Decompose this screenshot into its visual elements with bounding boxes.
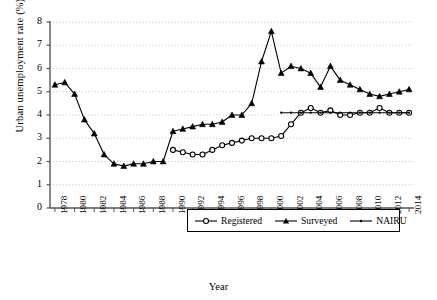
legend-marker-small-dot xyxy=(349,215,373,227)
legend-item-nairu: NAIRU xyxy=(349,215,406,227)
legend-item-registered: Registered xyxy=(194,215,262,227)
data-point-registered xyxy=(249,136,254,141)
legend-label: NAIRU xyxy=(376,215,406,226)
data-point-registered xyxy=(377,106,382,111)
chart-figure: Urban unemployment rate (%) Year 0123456… xyxy=(0,0,437,300)
data-point-surveyed xyxy=(268,28,274,34)
data-point-nairu xyxy=(398,112,400,114)
data-point-surveyed xyxy=(249,100,255,106)
x-tick-label: 1988 xyxy=(157,196,167,214)
data-point-registered xyxy=(279,133,284,138)
data-point-surveyed xyxy=(81,117,87,123)
data-point-registered xyxy=(289,122,294,127)
x-tick-label: 1980 xyxy=(78,196,88,214)
data-point-nairu xyxy=(300,112,302,114)
data-point-registered xyxy=(180,150,185,155)
data-point-registered xyxy=(308,106,313,111)
data-point-nairu xyxy=(408,112,410,114)
y-tick-label: 2 xyxy=(22,155,42,166)
y-tick-label: 7 xyxy=(22,38,42,49)
data-point-nairu xyxy=(280,112,282,114)
data-point-surveyed xyxy=(62,79,68,85)
y-tick-label: 0 xyxy=(22,201,42,212)
data-point-registered xyxy=(190,152,195,157)
data-point-nairu xyxy=(329,112,331,114)
data-point-surveyed xyxy=(288,63,294,69)
data-point-registered xyxy=(170,147,175,152)
data-point-registered xyxy=(239,138,244,143)
data-point-nairu xyxy=(369,112,371,114)
data-point-surveyed xyxy=(219,119,225,125)
data-point-surveyed xyxy=(278,70,284,76)
data-point-registered xyxy=(259,136,264,141)
y-tick-label: 3 xyxy=(22,131,42,142)
legend-marker-open-circle xyxy=(194,215,218,227)
legend-label: Registered xyxy=(221,215,262,226)
data-point-surveyed xyxy=(327,63,333,69)
data-point-surveyed xyxy=(101,151,107,157)
x-tick-label: 1984 xyxy=(118,196,128,214)
x-tick-label: 1978 xyxy=(59,196,69,214)
data-point-registered xyxy=(210,147,215,152)
data-point-surveyed xyxy=(357,86,363,92)
legend-item-surveyed: Surveyed xyxy=(274,215,337,227)
y-tick-label: 5 xyxy=(22,85,42,96)
data-point-nairu xyxy=(310,112,312,114)
data-point-registered xyxy=(269,136,274,141)
legend-label: Surveyed xyxy=(301,215,337,226)
y-tick-label: 6 xyxy=(22,62,42,73)
data-point-nairu xyxy=(359,112,361,114)
y-tick-label: 4 xyxy=(22,108,42,119)
y-tick-label: 1 xyxy=(22,178,42,189)
chart-legend: RegisteredSurveyedNAIRU xyxy=(187,209,400,232)
legend-marker-filled-triangle xyxy=(274,215,298,227)
data-point-surveyed xyxy=(406,86,412,92)
data-point-nairu xyxy=(378,112,380,114)
y-tick-label: 8 xyxy=(22,15,42,26)
x-tick-label: 1982 xyxy=(98,196,108,214)
plot-area xyxy=(0,0,437,300)
data-point-surveyed xyxy=(347,82,353,88)
x-tick-label: 1990 xyxy=(177,196,187,214)
data-point-surveyed xyxy=(259,58,265,64)
data-point-registered xyxy=(200,152,205,157)
data-point-nairu xyxy=(290,112,292,114)
data-point-nairu xyxy=(349,112,351,114)
data-point-nairu xyxy=(339,112,341,114)
x-tick-label: 2014 xyxy=(413,196,423,214)
data-point-nairu xyxy=(319,112,321,114)
data-point-surveyed xyxy=(308,70,314,76)
data-point-registered xyxy=(220,143,225,148)
data-point-registered xyxy=(230,140,235,145)
data-point-nairu xyxy=(388,112,390,114)
x-tick-label: 1986 xyxy=(137,196,147,214)
